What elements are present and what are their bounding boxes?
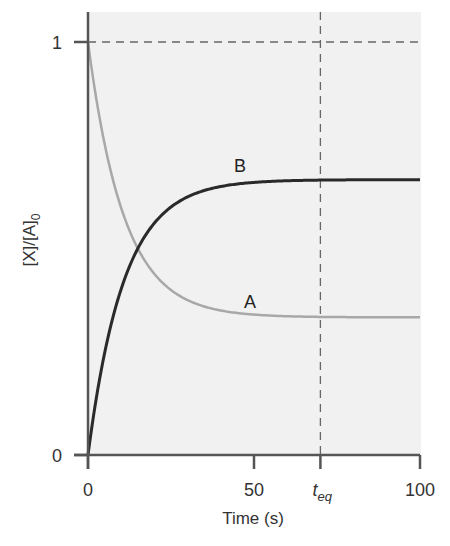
curve-label-b: B	[234, 156, 246, 176]
kinetics-chart: AB050teq10001Time (s)[X]/[A]0	[0, 0, 450, 546]
y-axis-title: [X]/[A]0	[20, 213, 43, 266]
plot-background	[89, 12, 421, 455]
x-tick-label: 0	[83, 480, 93, 500]
x-axis-title: Time (s)	[222, 509, 284, 528]
x-tick-label-teq: teq	[312, 480, 332, 504]
x-tick-label: 100	[405, 480, 435, 500]
y-tick-label: 1	[52, 33, 62, 53]
curve-label-a: A	[244, 292, 256, 312]
x-tick-label: 50	[244, 480, 264, 500]
y-tick-label: 0	[52, 446, 62, 466]
